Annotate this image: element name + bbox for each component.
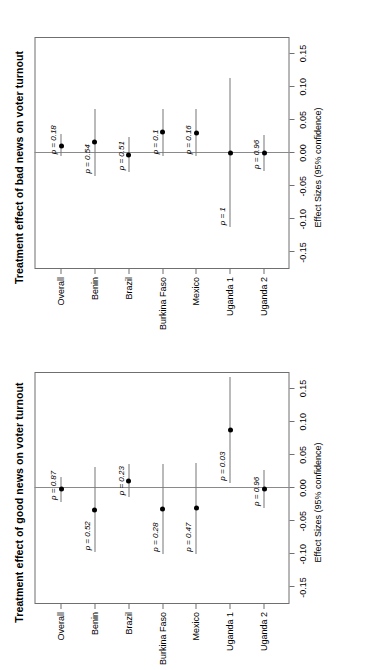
effect-size-point	[193, 505, 198, 510]
y-axis-tick	[128, 604, 129, 609]
x-axis-tick-label: -0.10	[297, 209, 307, 230]
panel-good-news-title: Treatment effect of good news on voter t…	[12, 335, 24, 670]
category-label: Uganda 2	[258, 277, 268, 335]
effect-size-point	[58, 143, 63, 148]
y-axis-tick	[162, 269, 163, 274]
y-axis-tick	[128, 269, 129, 274]
x-axis-tick	[289, 388, 294, 389]
y-axis-tick	[94, 604, 95, 609]
x-axis-tick	[289, 53, 294, 54]
effect-size-point	[160, 130, 165, 135]
p-value-label: p = 0.52	[82, 521, 91, 550]
p-value-label: p = 0.87	[49, 471, 58, 500]
x-axis-tick-label: 0.10	[297, 78, 307, 96]
y-axis-tick	[195, 604, 196, 609]
x-axis-tick	[289, 218, 294, 219]
x-axis-tick-label: 0.05	[297, 111, 307, 129]
y-axis-tick	[94, 269, 95, 274]
effect-size-point	[261, 151, 266, 156]
x-axis-tick	[289, 553, 294, 554]
category-label: Uganda 1	[224, 612, 234, 670]
effect-size-point	[126, 478, 131, 483]
p-value-label: p = 0.03	[218, 452, 227, 481]
x-axis-tick-label: 0.00	[297, 144, 307, 162]
p-value-label: p = 0.1	[150, 130, 159, 155]
y-axis-tick	[60, 269, 61, 274]
effect-size-point	[227, 427, 232, 432]
category-label: Brazil	[123, 612, 133, 670]
x-axis-tick	[289, 520, 294, 521]
x-axis-tick-label: -0.10	[297, 544, 307, 565]
category-label: Burkina Faso	[157, 277, 167, 335]
x-axis-tick	[289, 421, 294, 422]
category-label: Uganda 1	[224, 277, 234, 335]
effect-size-point	[58, 487, 63, 492]
y-axis-tick	[229, 269, 230, 274]
y-axis-tick	[229, 604, 230, 609]
p-value-label: p = 0.23	[116, 466, 125, 495]
x-axis-tick	[289, 251, 294, 252]
x-axis-tick-label: 0.10	[297, 413, 307, 431]
p-value-label: p = 0.28	[150, 522, 159, 551]
x-axis-tick	[289, 487, 294, 488]
panel-bad-news: Treatment effect of bad news on voter tu…	[0, 0, 367, 335]
p-value-label: p = 0.47	[184, 522, 193, 551]
x-axis-tick-label: 0.05	[297, 446, 307, 464]
x-axis-tick-label: 0.15	[297, 380, 307, 398]
effect-size-point	[261, 487, 266, 492]
category-label: Benin	[89, 277, 99, 335]
y-axis-tick	[162, 604, 163, 609]
figure-container: Treatment effect of good news on voter t…	[0, 0, 367, 670]
p-value-label: p = 0.96	[252, 477, 261, 506]
category-label: Uganda 2	[258, 612, 268, 670]
x-axis-tick	[289, 454, 294, 455]
category-label: Mexico	[190, 612, 200, 670]
x-axis-tick-label: -0.15	[297, 242, 307, 263]
x-axis-tick	[289, 119, 294, 120]
y-axis-tick	[263, 604, 264, 609]
category-label: Burkina Faso	[157, 612, 167, 670]
effect-size-point	[92, 507, 97, 512]
x-axis-tick-label: -0.05	[297, 176, 307, 197]
axis-title-bad-news: Effect Sizes (95% confidence)	[312, 0, 322, 335]
axis-title-good-news: Effect Sizes (95% confidence)	[312, 335, 322, 670]
panel-bad-news-title: Treatment effect of bad news on voter tu…	[12, 0, 24, 335]
y-axis-tick	[60, 604, 61, 609]
effect-size-point	[92, 140, 97, 145]
x-axis-tick	[289, 152, 294, 153]
p-value-label: p = 0.16	[184, 125, 193, 154]
x-axis-tick	[289, 185, 294, 186]
category-label: Benin	[89, 612, 99, 670]
p-value-label: p = 0.96	[252, 140, 261, 169]
x-axis-tick-label: -0.05	[297, 511, 307, 532]
x-axis-tick-label: -0.15	[297, 577, 307, 598]
category-label: Overall	[55, 612, 65, 670]
x-axis-tick-label: 0.15	[297, 45, 307, 63]
effect-size-point	[193, 131, 198, 136]
panel-good-news: Treatment effect of good news on voter t…	[0, 335, 367, 670]
category-label: Overall	[55, 277, 65, 335]
y-axis-tick	[195, 269, 196, 274]
x-axis-tick-label: 0.00	[297, 479, 307, 497]
p-value-label: p = 0.54	[82, 144, 91, 173]
effect-size-point	[160, 506, 165, 511]
p-value-label: p = 0.18	[49, 125, 58, 154]
p-value-label: p = 1	[218, 207, 227, 225]
category-label: Mexico	[190, 277, 200, 335]
effect-size-point	[227, 151, 232, 156]
p-value-label: p = 0.51	[116, 141, 125, 170]
category-label: Brazil	[123, 277, 133, 335]
x-axis-tick	[289, 86, 294, 87]
y-axis-tick	[263, 269, 264, 274]
effect-size-point	[126, 153, 131, 158]
x-axis-tick	[289, 586, 294, 587]
